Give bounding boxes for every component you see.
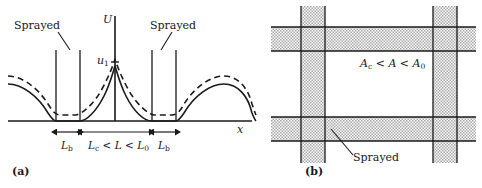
axis-label-x: x (237, 124, 243, 135)
area-term3-subscript: 0 (421, 62, 426, 71)
leader-line-sprayed-left (58, 32, 70, 50)
dim-label-lb-left: Lb (61, 140, 73, 152)
axis-label-u: U (103, 14, 112, 25)
dim-center-term2-base: L (115, 139, 122, 151)
area-term1-base: A (360, 57, 368, 70)
panel-a-displacement-profile: Sprayed Sprayed U u1 x Lb Lc < L < L0 Lb… (0, 0, 265, 188)
dim-label-center-relation: Lc < L < L0 (88, 140, 149, 152)
dim-label-lb-right-subscript: b (165, 144, 170, 153)
area-relation-2: < (396, 57, 412, 70)
area-term3-base: A (413, 57, 421, 70)
label-sprayed-right: Sprayed (150, 20, 196, 31)
panel-caption-b: (b) (305, 166, 323, 177)
sprayed-band-vertical-right (433, 6, 457, 163)
solid-displacement-curve (8, 66, 256, 121)
two-panel-figure: Sprayed Sprayed U u1 x Lb Lc < L < L0 Lb… (0, 0, 482, 188)
sprayed-band-vertical-left (301, 6, 325, 163)
leader-line-sprayed-right (161, 32, 172, 50)
panel-caption-a: (a) (12, 166, 30, 177)
dim-label-lb-left-subscript: b (68, 144, 73, 153)
label-sprayed-left: Sprayed (14, 20, 60, 31)
panel-b-sprayed-grid: Ac < A < A0 Sprayed (b) (265, 0, 482, 188)
dim-center-relation-1: < (99, 139, 114, 151)
label-sprayed-b: Sprayed (353, 152, 399, 163)
dim-center-term3-subscript: 0 (144, 144, 149, 153)
tick-label-u1: u1 (97, 55, 109, 67)
dim-center-relation-2: < (122, 139, 137, 151)
label-area-relation: Ac < A < A0 (360, 58, 425, 70)
dim-label-lb-left-base: L (61, 139, 68, 151)
area-relation-1: < (372, 57, 388, 70)
dim-center-term1-base: L (88, 139, 95, 151)
dim-label-lb-right: Lb (158, 140, 170, 152)
tick-label-u1-subscript: 1 (104, 59, 109, 68)
dim-label-lb-right-base: L (158, 139, 165, 151)
